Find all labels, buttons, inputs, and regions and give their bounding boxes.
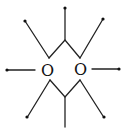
terminal-dot-top-right [101,17,104,20]
terminal-dot-bottom-right [102,115,105,118]
atom-o-right: O [74,60,87,79]
molecule-diagram: O O [0,0,124,128]
bond-bottom-right [80,80,103,116]
bond-bottom-left [28,80,50,116]
terminal-dot-top-left [23,19,26,22]
bond-top-v [49,40,80,58]
atom-o-left: O [41,61,54,80]
bond-top-right [80,19,103,58]
terminal-dot-top [63,6,66,9]
bond-bottom-v [50,80,80,97]
terminal-dot-right [117,67,120,70]
bond-top-left [25,21,49,58]
terminal-dot-bottom-left [25,115,28,118]
terminal-dot-left [5,68,8,71]
